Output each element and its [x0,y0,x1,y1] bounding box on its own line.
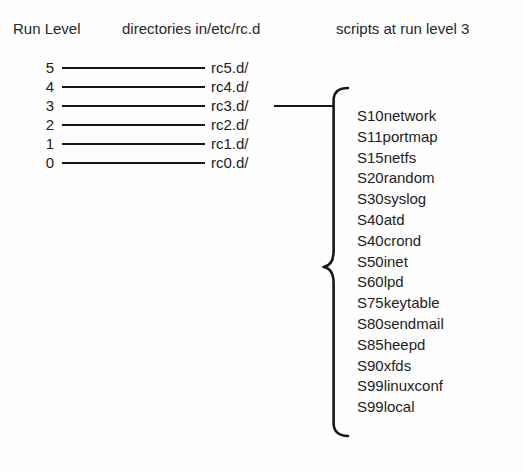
run-level-number: 4 [44,77,56,96]
run-level-list: 5rc5.d/4rc4.d/3rc3.d/2rc2.d/1rc1.d/0rc0.… [0,58,300,172]
run-level-connector-line [62,162,205,164]
run-level-connector-line [62,86,205,88]
run-level-directory: rc4.d/ [211,77,249,96]
run-level-directory: rc0.d/ [211,153,249,172]
run-level-row: 5rc5.d/ [0,58,300,77]
run-level-number: 0 [44,153,56,172]
run-level-directory: rc5.d/ [211,58,249,77]
run-level-number: 2 [44,115,56,134]
script-item: S99linuxconf [357,376,523,397]
run-level-number: 5 [44,58,56,77]
script-item: S15netfs [357,148,523,169]
script-item: S40atd [357,210,523,231]
script-list: S10networkS11portmapS15netfsS20randomS30… [357,106,523,418]
script-item: S40crond [357,231,523,252]
column-header-run-level: Run Level [13,20,81,38]
column-header-directories: directories in/etc/rc.d [122,20,260,38]
run-level-row: 2rc2.d/ [0,115,300,134]
script-item: S60lpd [357,272,523,293]
script-item: S99local [357,397,523,418]
script-item: S75keytable [357,293,523,314]
run-level-row: 0rc0.d/ [0,153,300,172]
script-item: S85heepd [357,335,523,356]
script-item: S30syslog [357,189,523,210]
script-item: S50inet [357,252,523,273]
curly-brace-icon [322,86,356,440]
script-item: S20random [357,168,523,189]
script-item: S11portmap [357,127,523,148]
run-level-number: 1 [44,134,56,153]
run-level-connector-line [62,105,205,107]
script-item: S10network [357,106,523,127]
column-header-scripts: scripts at run level 3 [336,20,469,38]
run-level-diagram: Run Level directories in/etc/rc.d script… [0,0,523,472]
run-level-connector-line [62,143,205,145]
run-level-directory: rc3.d/ [211,96,249,115]
run-level-row: 3rc3.d/ [0,96,300,115]
run-level-directory: rc1.d/ [211,134,249,153]
run-level-connector-line [62,67,205,69]
run-level-directory: rc2.d/ [211,115,249,134]
run-level-row: 1rc1.d/ [0,134,300,153]
run-level-number: 3 [44,96,56,115]
run-level-connector-line [62,124,205,126]
run-level-row: 4rc4.d/ [0,77,300,96]
script-item: S90xfds [357,356,523,377]
script-item: S80sendmail [357,314,523,335]
